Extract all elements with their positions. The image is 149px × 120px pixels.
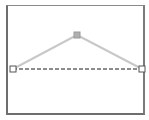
shape-layer [0,0,149,120]
right-control-handle[interactable] [139,66,145,72]
apex-control-handle[interactable] [74,32,80,38]
left-control-handle[interactable] [10,66,16,72]
right-edge-line[interactable] [77,35,142,69]
left-edge-line[interactable] [13,35,77,69]
